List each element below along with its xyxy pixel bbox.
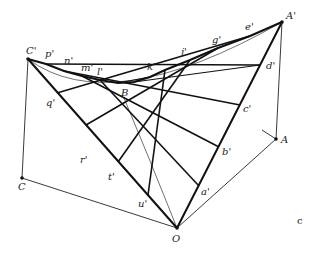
- point-a: [274, 137, 278, 141]
- label-o: O: [172, 233, 180, 244]
- label-r: r': [80, 154, 88, 165]
- label-a-prime: A': [285, 10, 296, 21]
- label-a: A: [280, 134, 288, 145]
- label-a-prime-small: a': [201, 186, 210, 197]
- point-o: [175, 226, 179, 230]
- label-g: g': [212, 34, 221, 45]
- label-c: C: [18, 181, 26, 192]
- edge-c-cprime: [22, 59, 28, 178]
- label-p: p': [45, 48, 54, 59]
- hyperbolic-paraboloid-diagram: A' C' O A C B p' n' m' l' k' j' g' e' d'…: [0, 0, 315, 259]
- label-u: u': [138, 198, 147, 209]
- diagram-svg: A' C' O A C B p' n' m' l' k' j' g' e' d'…: [0, 0, 315, 259]
- parabola-main: [28, 22, 282, 82]
- label-d: d': [266, 60, 275, 71]
- ruling-a: [100, 80, 199, 186]
- label-m: m': [81, 62, 93, 73]
- point-a-prime: [280, 20, 284, 24]
- edge-top-envelope: [28, 22, 282, 83]
- label-b-prime: b': [222, 146, 231, 157]
- label-q: q': [46, 97, 55, 108]
- label-b: B: [120, 87, 128, 98]
- edge-a-aprime: [276, 22, 282, 139]
- parabola-vertical: [124, 98, 177, 228]
- label-c-prime-small: c': [243, 103, 251, 114]
- label-c-prime: C': [26, 45, 36, 56]
- label-l: l': [97, 66, 103, 77]
- base-frame: [22, 22, 282, 228]
- label-e: e': [245, 21, 254, 32]
- label-j: j': [179, 46, 187, 57]
- point-c: [20, 176, 24, 180]
- point-c-prime: [26, 57, 30, 61]
- label-k: k': [147, 61, 156, 72]
- label-n: n': [64, 55, 73, 66]
- panel-label: c: [297, 215, 303, 226]
- ruling-family-2: [57, 36, 250, 195]
- label-t: t': [108, 171, 115, 182]
- boundary-edges: [28, 22, 282, 228]
- edge-a-inner: [262, 130, 276, 139]
- parabola-curves: [28, 22, 282, 228]
